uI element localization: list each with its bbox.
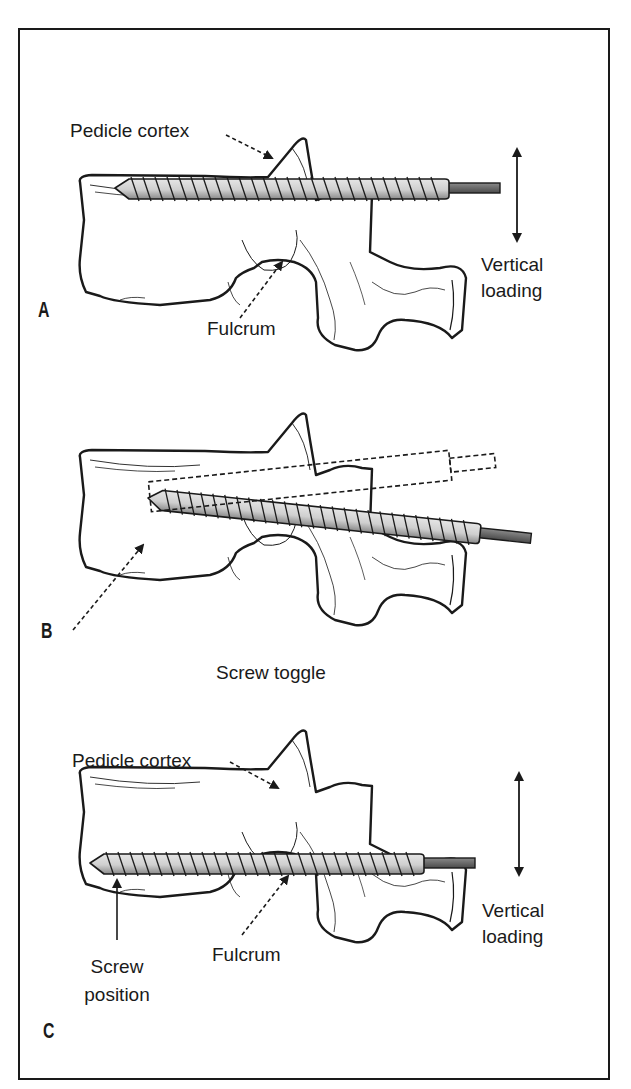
panel-a-letter: A bbox=[38, 297, 49, 323]
panel-a-vertical-loading-label-line2: loading bbox=[481, 280, 542, 302]
panel-c-pedicle-cortex-label: Pedicle cortex bbox=[72, 750, 191, 772]
panel-a-vertical-loading-label-line1: Vertical bbox=[481, 254, 543, 276]
panel-c-vertical-loading-label-line1: Vertical bbox=[482, 900, 544, 922]
panel-c-fulcrum-label: Fulcrum bbox=[212, 944, 281, 966]
panel-c-vertical-loading-label-line2: loading bbox=[482, 926, 543, 948]
panel-b-artwork bbox=[73, 414, 532, 630]
panel-b-letter: B bbox=[41, 618, 52, 644]
panel-c-screw-position-label-line1: Screw bbox=[72, 956, 162, 978]
panel-a-artwork bbox=[80, 135, 517, 350]
panel-c-screw-position-label-line2: position bbox=[72, 984, 162, 1006]
panel-b-caption: Screw toggle bbox=[216, 662, 326, 684]
panel-c-letter: C bbox=[43, 1018, 54, 1044]
panel-a-fulcrum-label: Fulcrum bbox=[207, 318, 276, 340]
panel-a-pedicle-cortex-label: Pedicle cortex bbox=[70, 120, 189, 142]
